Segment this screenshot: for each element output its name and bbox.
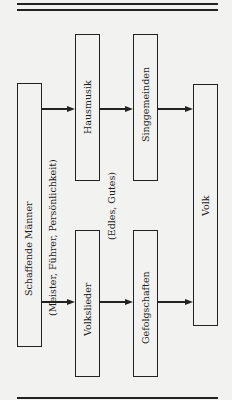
arrowhead-icon bbox=[125, 106, 133, 112]
node-hausmusik-label: Hausmusik bbox=[82, 80, 93, 134]
node-schaffende-sublabel: (Meister, Führer, Persönlichkeit) bbox=[47, 159, 58, 316]
bottom-rule bbox=[17, 397, 218, 399]
edge-schaffende-volkslieder bbox=[42, 301, 69, 303]
node-volk-label: Volk bbox=[200, 195, 211, 216]
edge-volkslieder-gefolgschaften bbox=[100, 301, 127, 303]
node-singgemeinden-label: Singgemeinden bbox=[140, 67, 151, 142]
arrowhead-icon bbox=[67, 106, 75, 112]
top-rule-1 bbox=[17, 3, 218, 5]
top-rule-2 bbox=[17, 9, 218, 11]
arrowhead-icon bbox=[125, 299, 133, 305]
edge-singgemeinden-volk bbox=[158, 108, 187, 110]
node-gefolgschaften-label: Gefolgschaften bbox=[140, 271, 151, 344]
node-volkslieder-label: Volkslieder bbox=[82, 283, 93, 336]
middle-note: (Edles, Gutes) bbox=[106, 172, 117, 240]
edge-hausmusik-singgemeinden bbox=[100, 108, 127, 110]
arrowhead-icon bbox=[67, 299, 75, 305]
edge-schaffende-hausmusik bbox=[42, 108, 69, 110]
arrowhead-icon bbox=[185, 106, 193, 112]
edge-gefolgschaften-volk bbox=[158, 301, 187, 303]
arrowhead-icon bbox=[185, 299, 193, 305]
node-schaffende-label: Schaffende Männer bbox=[23, 201, 34, 296]
